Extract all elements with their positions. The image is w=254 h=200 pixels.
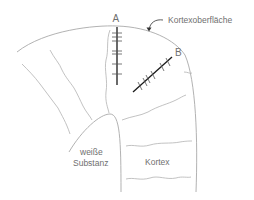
cortical-column-line	[50, 50, 92, 120]
white-matter-label-line1: weiße	[79, 147, 103, 157]
cortex-surface-label: Kortexoberfläche	[168, 15, 233, 25]
cortical-column-line	[22, 64, 70, 134]
cortical-column-line	[105, 30, 110, 113]
cortical-column-line	[126, 177, 191, 179]
surface-arrow-icon	[147, 20, 164, 32]
electrode-b-label: B	[175, 47, 182, 58]
electrode-a	[112, 27, 122, 85]
electrode-b	[133, 57, 172, 92]
cortex-diagram: A B Kortexoberfläche weiße Substanz Kort…	[0, 0, 254, 200]
cortical-column-line	[184, 72, 192, 73]
cortical-column-line	[122, 95, 186, 120]
cortex-label: Kortex	[145, 157, 170, 167]
white-matter-label-line2: Substanz	[73, 158, 108, 168]
cortical-column-line	[126, 141, 192, 146]
electrode-a-label: A	[113, 13, 120, 24]
